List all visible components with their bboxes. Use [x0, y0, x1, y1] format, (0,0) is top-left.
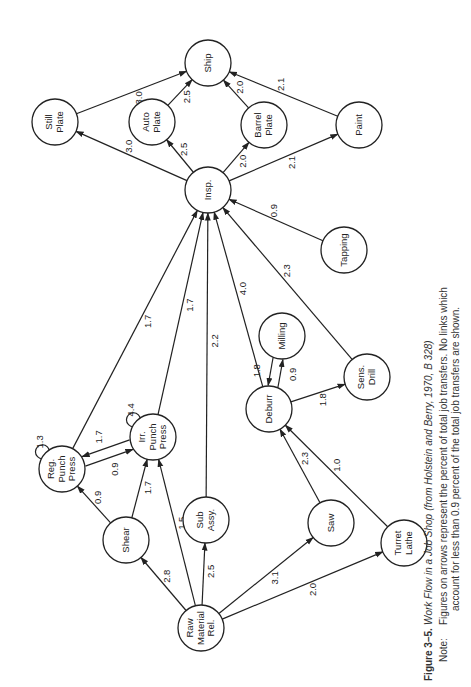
node-label: Plate [151, 111, 162, 133]
edge-deburr-to-milling: 0.9 [278, 360, 298, 388]
edge-raw-material-rel-to-sub-assy: 2.5 [202, 543, 216, 605]
node-label: Shear [120, 527, 131, 552]
node-raw-material-rel: RawMaterialRel. [178, 605, 224, 651]
node-label: Sens. [355, 365, 366, 389]
edge-label: 2.1 [275, 78, 286, 91]
edge-label: 1.7 [142, 481, 153, 494]
edge-label: 1.7 [184, 298, 195, 311]
edge-milling-to-deburr: 1.8 [251, 358, 273, 386]
note-label: Note: [438, 638, 449, 662]
figure-title-main: Work Flow in a Job Shop [423, 513, 434, 625]
note-line-1: Figures on arrows represent the percent … [438, 287, 449, 625]
node-label: Paint [353, 114, 364, 136]
node-label: Irr. [136, 431, 147, 442]
edge-deburr-to-sens-drill: 1.8 [291, 384, 345, 406]
edge-label: 3.0 [123, 140, 134, 153]
node-shear: Shear [103, 517, 149, 563]
caption-block: Note: Figures on arrows represent the pe… [423, 287, 461, 681]
edge-raw-material-rel-to-saw: 3.1 [219, 537, 313, 613]
node-sens-drill: Sens.Drill [344, 354, 390, 400]
node-label: Material [195, 611, 206, 645]
edge-label: 2.3 [299, 452, 310, 465]
node-turret-lathe: TurretLathe [381, 520, 427, 566]
edge-tapping-to-insp: 0.9 [229, 199, 323, 240]
edge-label: 1.7 [142, 315, 153, 328]
node-label: Deburr [263, 394, 274, 423]
edge-raw-material-rel-to-shear: 2.8 [141, 558, 186, 611]
node-label: Press [157, 425, 168, 450]
edge-sub-assy-to-insp: 2.2 [206, 213, 219, 497]
figure-title-source: (from Holstein and Berry, 1970, B 328) [423, 340, 434, 510]
node-label: Lathe [403, 531, 414, 555]
node-label: Plate [54, 111, 65, 133]
edge-barrel-plate-to-ship: 2.0 [223, 80, 248, 108]
note-line-2: account for less than 0.9 percent of the… [450, 307, 461, 611]
edge-label: 1.0 [331, 459, 342, 472]
node-label: Still [43, 114, 54, 129]
edge-label: 4.0 [237, 282, 248, 295]
figure-number: Figure 3–5. [423, 628, 434, 681]
node-label: Saw [325, 514, 336, 533]
node-label: Tapping [338, 233, 349, 266]
edge-shear-to-irr-punch-press: 1.7 [132, 459, 153, 518]
edge-label: 0.9 [268, 204, 279, 217]
node-label: Drill [366, 369, 377, 385]
edge-label: 2.8 [161, 570, 172, 583]
edge-label: 2.3 [281, 264, 292, 277]
edge-label: 2.0 [237, 155, 248, 168]
node-irr-punch-press: Irr.PunchPress [130, 414, 176, 460]
node-reg-punch-press: Reg.PunchPress [39, 446, 85, 492]
edge-insp-to-barrel-plate: 2.0 [223, 142, 249, 172]
node-label: Barrel [252, 112, 263, 137]
edge-label: 3.1 [269, 571, 280, 584]
edge-label: 2.5 [181, 90, 192, 103]
node-auto-plate: AutoPlate [129, 99, 175, 145]
edge-label: 1.8 [317, 393, 328, 406]
node-label: Raw [184, 618, 195, 637]
edge-insp-to-still-plate: 3.0 [76, 131, 187, 180]
node-label: Rel. [205, 620, 216, 637]
edge-label: 0.9 [287, 368, 298, 381]
edge-label: 1.3 [34, 435, 45, 448]
edge-label: 0.9 [109, 462, 120, 475]
edge-label: 2.1 [286, 156, 297, 169]
edge-label: 1.7 [93, 430, 104, 443]
edge-paint-to-ship: 2.1 [229, 72, 337, 117]
node-deburr: Deburr [246, 386, 292, 432]
node-milling: Milling [259, 313, 305, 359]
node-barrel-plate: BarrelPlate [241, 102, 287, 148]
node-saw: Saw [308, 500, 354, 546]
work-flow-diagram: 3.02.52.02.13.02.52.02.10.92.34.02.21.71… [0, 0, 471, 687]
edge-label: 2.0 [234, 81, 245, 94]
node-label: Plate [263, 114, 274, 136]
node-label: Milling [276, 323, 287, 350]
node-insp: Insp. [185, 167, 231, 213]
edge-raw-material-rel-to-turret-lathe: 2.0 [222, 552, 383, 619]
node-label: Punch [56, 456, 67, 483]
edge-label: 1.8 [251, 364, 262, 377]
node-label: Ship [202, 53, 213, 72]
node-tapping: Tapping [321, 227, 367, 273]
edge-label: 2.0 [307, 583, 318, 596]
edge-label: 2.5 [205, 565, 216, 578]
node-label: Sub [194, 512, 205, 529]
edge-shear-to-reg-punch-press: 0.9 [77, 486, 110, 523]
node-paint: Paint [336, 102, 382, 148]
edge-deburr-to-insp: 4.0 [214, 212, 263, 387]
edge-insp-to-auto-plate: 2.5 [167, 140, 194, 172]
node-label: Auto [140, 112, 151, 132]
edge-label: 2.2 [209, 334, 220, 347]
figure-title: Work Flow in a Job Shop(from Holstein an… [423, 340, 434, 625]
node-sub-assy: SubAssy. [183, 497, 229, 543]
nodes-layer: ShipStillPlateAutoPlateBarrelPlatePaintI… [32, 40, 427, 651]
edge-auto-plate-to-ship: 2.5 [168, 80, 192, 106]
node-label: Turret [392, 530, 403, 555]
node-label: Insp. [202, 180, 213, 201]
node-label: Assy. [205, 509, 216, 532]
node-label: Reg. [45, 459, 56, 479]
node-ship: Ship [185, 40, 231, 86]
edge-label: 2.5 [178, 143, 189, 156]
edge-label: 0.9 [92, 491, 103, 504]
node-label: Punch [147, 424, 158, 451]
node-label: Press [66, 457, 77, 482]
